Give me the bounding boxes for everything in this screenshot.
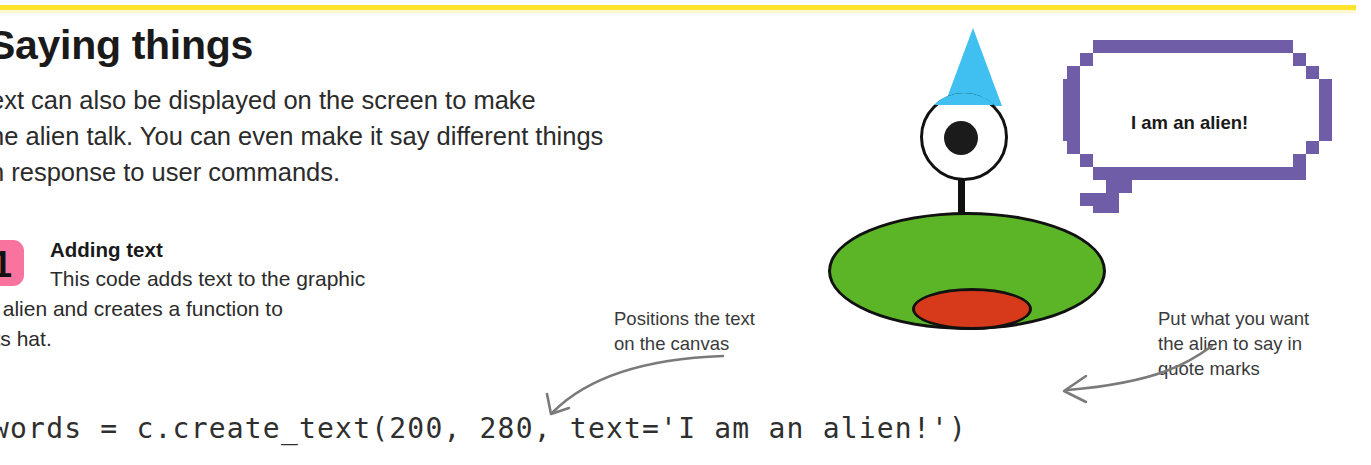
page-title: Saying things xyxy=(0,22,253,69)
step-title: Adding text xyxy=(50,238,163,262)
book-page: Saying things ext can also be displayed … xyxy=(0,0,1371,465)
code-line: words = c.create_text(200, 280, text='I … xyxy=(0,412,967,445)
alien-pupil xyxy=(944,121,978,155)
speech-bubble-text: I am an alien! xyxy=(1131,112,1248,134)
alien-mouth xyxy=(912,288,1032,330)
step-number: 1 xyxy=(0,243,12,287)
intro-paragraph: ext can also be displayed on the screen … xyxy=(0,82,790,190)
step-body-line-2: f the alien and creates a function to xyxy=(0,294,365,324)
callout-right-line-1: Put what you want xyxy=(1158,306,1309,331)
callout-right-arrow-icon xyxy=(1040,340,1220,420)
callout-positions-text: Positions the text on the canvas xyxy=(614,306,755,356)
intro-line-3: n response to user commands. xyxy=(0,154,790,190)
intro-line-1: ext can also be displayed on the screen … xyxy=(0,82,790,118)
callout-left-line-1: Positions the text xyxy=(614,306,755,331)
top-yellow-rule-fade xyxy=(0,10,1356,13)
step-number-badge: 1 xyxy=(0,240,24,286)
step-body: This code adds text to the graphic f the… xyxy=(50,264,365,354)
intro-line-2: he alien talk. You can even make it say … xyxy=(0,118,790,154)
step-body-line-1: This code adds text to the graphic xyxy=(50,264,365,294)
step-body-line-3: eal its hat. xyxy=(0,324,365,354)
speech-bubble: I am an alien! xyxy=(1063,28,1353,213)
